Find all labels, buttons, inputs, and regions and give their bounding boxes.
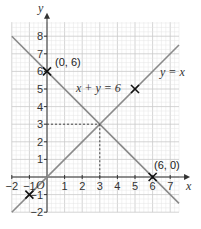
- y-tick-label: 8: [37, 30, 43, 42]
- x-tick-label: 2: [79, 180, 85, 192]
- y-tick-label: −2: [30, 206, 43, 218]
- y-tick-label: 1: [37, 153, 43, 165]
- y-tick-label: 7: [37, 48, 43, 60]
- x-tick-label: 6: [150, 180, 156, 192]
- y-tick-label: 5: [37, 83, 43, 95]
- line-graph: −2−11234567−2−112345678 y x O x + y = 6 …: [0, 0, 201, 229]
- origin-label: O: [36, 178, 45, 192]
- x-tick-label: −2: [6, 180, 19, 192]
- y-axis-label: y: [37, 1, 44, 15]
- x-tick-label: 7: [167, 180, 173, 192]
- x-tick-label: 3: [97, 180, 103, 192]
- x-axis-label: x: [185, 179, 192, 193]
- x-tick-label: 4: [114, 180, 120, 192]
- point-label-6-0: (6, 0): [154, 159, 180, 171]
- y-tick-label: 6: [37, 65, 43, 77]
- x-tick-label: 1: [62, 180, 68, 192]
- y-tick-label: 4: [37, 101, 43, 113]
- point-label-0-6: (0, 6): [55, 56, 81, 68]
- x-tick-label: 5: [132, 180, 138, 192]
- y-tick-label: 3: [37, 118, 43, 130]
- line-label-y-eq-x: y = x: [159, 65, 185, 79]
- line-label-x-plus-y: x + y = 6: [75, 81, 121, 95]
- y-tick-label: 2: [37, 136, 43, 148]
